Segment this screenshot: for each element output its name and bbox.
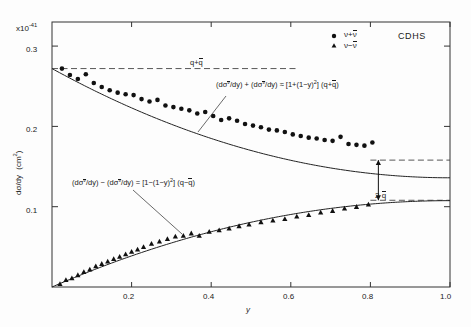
x-axis-title: y bbox=[246, 305, 250, 314]
data-points bbox=[57, 66, 374, 286]
y-axis-exponent: x10-41 bbox=[16, 24, 37, 33]
y-axis-title: dσ/dy (cm2) bbox=[14, 151, 23, 196]
dashed-line-label: q+q bbox=[190, 58, 203, 67]
gap-annotation-label: 2 q bbox=[375, 191, 386, 200]
xtick-label-0.8: 0.8 bbox=[362, 292, 373, 301]
ytick-label-0.2: 0.2 bbox=[26, 125, 37, 134]
axis-ticks bbox=[52, 22, 450, 287]
xtick-label-0.6: 0.6 bbox=[283, 292, 294, 301]
xtick-label-0.4: 0.4 bbox=[203, 292, 214, 301]
ytick-label-0.3: 0.3 bbox=[26, 45, 37, 54]
xtick-label-0.2: 0.2 bbox=[123, 292, 134, 301]
legend-markers bbox=[332, 34, 337, 48]
plot-frame bbox=[52, 22, 450, 287]
legend-item-nu-minus-nubar: ν−ν bbox=[344, 41, 357, 50]
experiment-label: CDHS bbox=[398, 31, 426, 41]
difference-equation-annotation: (dσν/dy) − (dσν/dy) = [1−(1−y)2] (q−q) bbox=[72, 178, 195, 187]
chart-canvas bbox=[0, 0, 471, 327]
ytick-label-0.1: 0.1 bbox=[26, 206, 37, 215]
sum-equation-annotation: (dσν/dy) + (dσν/dy) ≈ [1+(1−y)2] (q+q) bbox=[216, 80, 339, 89]
legend-item-nu-plus-nubar: ν+ν bbox=[344, 30, 357, 39]
xtick-label-1.0: 1.0 bbox=[440, 292, 451, 301]
figure-container: x10-41 0.3 0.2 0.1 dσ/dy (cm2) 0.2 0.4 0… bbox=[0, 0, 471, 327]
